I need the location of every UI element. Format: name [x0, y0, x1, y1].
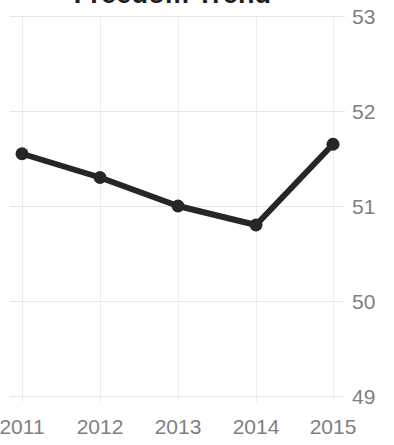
data-point-marker — [327, 138, 340, 151]
data-point-marker — [94, 171, 107, 184]
data-point-marker — [250, 219, 263, 232]
chart-container: Freedom Trend 53 52 51 50 49 2011 2012 2… — [0, 0, 394, 445]
plot-area: 53 52 51 50 49 2011 2012 2013 2014 2015 — [0, 0, 394, 445]
data-series-layer — [0, 0, 394, 445]
data-point-marker — [16, 147, 29, 160]
data-point-marker — [172, 200, 185, 213]
series-line — [22, 144, 333, 225]
